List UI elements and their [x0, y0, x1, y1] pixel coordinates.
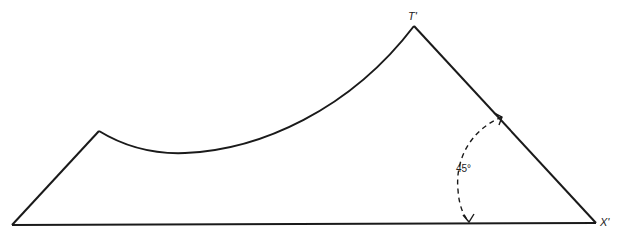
top-vertex-label: T' [408, 10, 418, 22]
right-side-line [414, 26, 596, 223]
left-side-line [12, 131, 99, 225]
right-vertex-label: X' [599, 216, 610, 228]
curved-edge [99, 26, 414, 153]
base-line [12, 223, 596, 225]
angle-label: 45° [456, 163, 471, 174]
figure-svg: T' X' 45° [0, 0, 631, 238]
diagram-canvas: T' X' 45° [0, 0, 631, 238]
